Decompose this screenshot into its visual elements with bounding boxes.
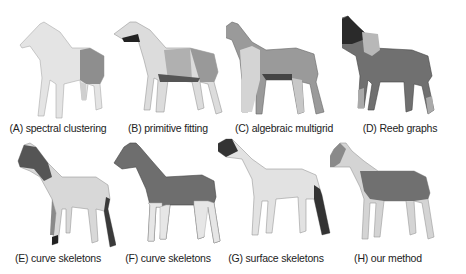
panel-d: (D) Reeb graphs xyxy=(342,0,458,137)
caption-f: (F) curve skeletons xyxy=(110,252,226,264)
caption-a: (A) spectral clustering xyxy=(0,122,116,134)
caption-e: (E) curve skeletons xyxy=(0,252,116,264)
horse-segmentation-figure: (A) spectral clustering (B) primitive fi… xyxy=(0,0,466,274)
panel-f: (F) curve skeletons xyxy=(110,137,226,274)
caption-c: (C) algebraic multigrid xyxy=(226,122,342,134)
panel-e: (E) curve skeletons xyxy=(0,137,116,274)
panel-b: (B) primitive fitting xyxy=(110,0,226,137)
horse-image-algebraic-multigrid xyxy=(226,0,342,137)
panel-g: (G) surface skeletons xyxy=(218,137,334,274)
horse-image-reeb-graphs xyxy=(342,0,458,137)
caption-h: (H) our method xyxy=(330,252,446,264)
panel-a: (A) spectral clustering xyxy=(0,0,116,137)
horse-image-spectral-clustering xyxy=(0,0,116,137)
panel-c: (C) algebraic multigrid xyxy=(226,0,342,137)
caption-g: (G) surface skeletons xyxy=(218,252,334,264)
horse-image-primitive-fitting xyxy=(110,0,226,137)
caption-b: (B) primitive fitting xyxy=(110,122,226,134)
caption-d: (D) Reeb graphs xyxy=(342,122,458,134)
panel-h: (H) our method xyxy=(330,137,446,274)
